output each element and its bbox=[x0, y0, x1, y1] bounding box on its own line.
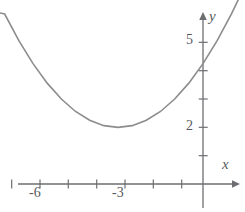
y-axis-arrowhead bbox=[199, 12, 207, 20]
x-tick-label-neg3: -3 bbox=[112, 186, 124, 200]
y-tick-label-5: 5 bbox=[186, 33, 193, 47]
plot-canvas bbox=[0, 0, 245, 212]
x-tick-label-neg6: -6 bbox=[29, 186, 41, 200]
graph-figure: y x 5 2 -6 -3 bbox=[0, 0, 245, 212]
x-axis-arrowhead bbox=[232, 180, 240, 188]
y-axis-label: y bbox=[209, 9, 216, 24]
y-tick-label-2: 2 bbox=[186, 119, 193, 133]
x-axis-label: x bbox=[222, 157, 229, 172]
